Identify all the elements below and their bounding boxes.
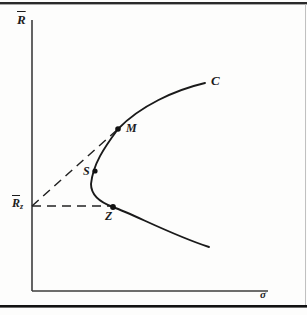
page-right-edge: [305, 4, 306, 305]
frame-bottom-rule: [0, 305, 307, 308]
point-s-dot: [92, 168, 97, 173]
point-m-dot: [115, 126, 121, 132]
tangent-dashed-line: [32, 129, 118, 206]
frame-top-rule: [0, 2, 307, 4]
zero-beta-return-label: Rz: [12, 197, 23, 211]
point-z-label: Z: [105, 210, 112, 222]
x-axis-label: σ: [260, 289, 266, 300]
y-axis-label: R: [17, 13, 26, 26]
point-m-label: M: [126, 122, 137, 134]
point-s-label: S: [83, 165, 90, 177]
figure-zero-beta-frontier: R Rz C M S Z σ: [0, 0, 307, 315]
curve-label: C: [211, 74, 220, 87]
diagram-canvas: [0, 0, 307, 315]
